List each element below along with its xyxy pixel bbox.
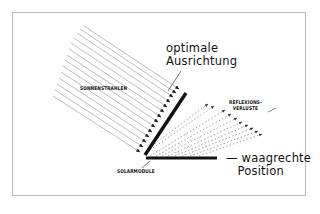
leader-line-solarmodule (142, 161, 150, 168)
diagram-canvas (0, 0, 320, 214)
label-reflexions-verluste: REFLEXIONS- VERLUSTE (229, 100, 262, 112)
leader-line-optimal (168, 71, 181, 91)
leader-line-reflexion (268, 108, 276, 112)
reflected-rays-group (147, 104, 262, 156)
label-solarmodule: SOLARMODULE (117, 169, 155, 175)
label-waagrechte-position: — waagrechte Position (226, 152, 311, 178)
reflection-speckles (162, 133, 210, 152)
label-sonnenstrahlen: SONNENSTRAHLEN (80, 86, 127, 92)
label-optimale-ausrichtung: optimale Ausrichtung (166, 42, 237, 68)
figure-container: optimale Ausrichtung — waagrechte Positi… (0, 0, 320, 214)
